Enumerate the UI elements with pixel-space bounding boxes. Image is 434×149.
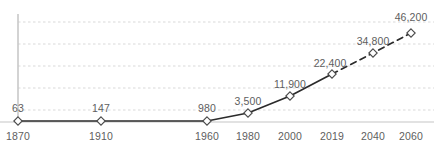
line-chart: 631479803,50011,90022,40034,80046,200 18… [0, 0, 434, 149]
x-tick-label: 1870 [6, 131, 30, 142]
data-point-marker [14, 117, 22, 125]
x-tick-label: 2040 [361, 131, 385, 142]
data-value-label: 980 [198, 103, 216, 114]
chart-canvas [0, 0, 434, 149]
x-tick-label: 2019 [320, 131, 344, 142]
x-tick-label: 1910 [89, 131, 113, 142]
data-value-label: 63 [12, 103, 24, 114]
data-value-label: 147 [92, 103, 110, 114]
axis-lines [0, 14, 434, 122]
data-value-label: 11,900 [274, 79, 306, 90]
x-tick-label: 2060 [399, 131, 423, 142]
data-point-marker [203, 117, 211, 125]
x-tick-label: 1960 [195, 131, 219, 142]
data-point-marker [97, 117, 105, 125]
data-point-marker [328, 70, 336, 78]
data-value-label: 3,500 [235, 96, 262, 107]
x-tick-label: 1980 [236, 131, 260, 142]
data-point-marker [407, 29, 415, 37]
data-point-marker [286, 92, 294, 100]
data-value-label: 22,400 [314, 58, 347, 69]
x-tick-label: 2000 [278, 131, 302, 142]
data-value-label: 34,800 [357, 36, 390, 47]
data-value-label: 46,200 [395, 12, 428, 23]
data-point-marker [369, 49, 377, 57]
